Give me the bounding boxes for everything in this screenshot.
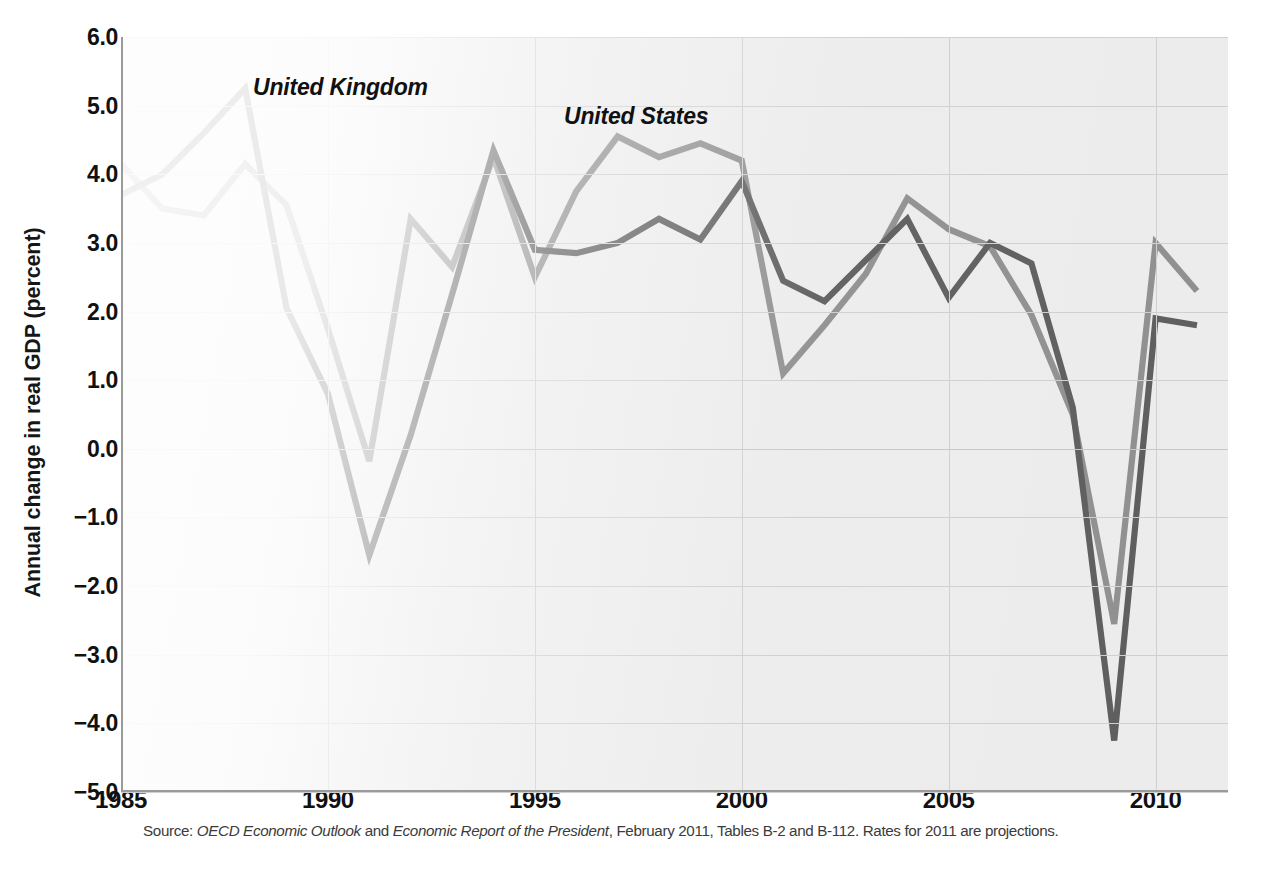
- y-axis-tick-label: 2.0: [32, 298, 118, 325]
- y-axis-tick-labels: 6.05.04.03.02.01.00.0−1.0−2.0−3.0−4.0−5.…: [10, 0, 118, 872]
- series-label-united-states: United States: [564, 103, 708, 130]
- plot-area: [121, 37, 1228, 792]
- y-axis-line: [121, 37, 123, 792]
- gridline-horizontal: [121, 586, 1228, 587]
- gridline-vertical: [949, 37, 950, 792]
- source-italic-erp: Economic Report of the President: [393, 822, 609, 839]
- gridline-horizontal: [121, 243, 1228, 244]
- gridline-vertical: [742, 37, 743, 792]
- gridline-horizontal: [121, 655, 1228, 656]
- gridline-horizontal: [121, 517, 1228, 518]
- gridline-vertical: [328, 37, 329, 792]
- gridline-vertical: [1156, 37, 1157, 792]
- y-axis-tick-label: −2.0: [32, 573, 118, 600]
- gridline-horizontal: [121, 380, 1228, 381]
- y-axis-tick-label: 1.0: [32, 367, 118, 394]
- source-note: Source: OECD Economic Outlook and Econom…: [143, 822, 1058, 839]
- gridline-horizontal: [121, 37, 1228, 38]
- x-axis-line: [121, 790, 1228, 792]
- series-label-united-kingdom: United Kingdom: [253, 74, 428, 101]
- series-lines: [121, 37, 1228, 792]
- gridline-horizontal: [121, 723, 1228, 724]
- line-united-kingdom: [121, 88, 1197, 740]
- source-mid: and: [361, 822, 393, 839]
- y-axis-tick-label: −3.0: [32, 641, 118, 668]
- gridline-horizontal: [121, 449, 1228, 450]
- y-axis-tick-label: 3.0: [32, 229, 118, 256]
- source-italic-oecd: OECD Economic Outlook: [197, 822, 361, 839]
- y-axis-tick-label: 4.0: [32, 161, 118, 188]
- gridline-horizontal: [121, 312, 1228, 313]
- source-suffix: , February 2011, Tables B-2 and B-112. R…: [609, 822, 1059, 839]
- y-axis-tick-label: 6.0: [32, 24, 118, 51]
- y-axis-tick-label: −4.0: [32, 710, 118, 737]
- y-axis-tick-label: −1.0: [32, 504, 118, 531]
- gdp-growth-chart-figure: Annual change in real GDP (percent) 6.05…: [0, 0, 1269, 872]
- gridline-vertical: [535, 37, 536, 792]
- gridline-horizontal: [121, 792, 1228, 793]
- y-axis-tick-label: 5.0: [32, 92, 118, 119]
- source-prefix: Source:: [143, 822, 197, 839]
- y-axis-tick-label: 0.0: [32, 435, 118, 462]
- gridline-horizontal: [121, 174, 1228, 175]
